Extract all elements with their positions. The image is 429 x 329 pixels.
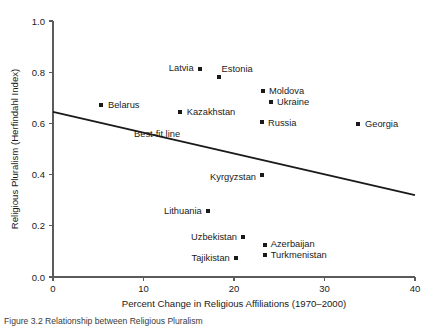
best-fit-line-label: Best-fit line (134, 129, 180, 139)
x-tick-label: 20 (229, 283, 240, 294)
y-tick-label: 0.2 (32, 220, 45, 231)
y-tick-label: 0.0 (32, 272, 45, 283)
x-tick-group: 010203040 (50, 277, 420, 294)
data-point-marker (241, 235, 245, 239)
data-point-marker (234, 256, 238, 260)
data-point-marker (178, 110, 182, 114)
data-point-label: Georgia (365, 119, 399, 129)
data-point-label: Turkmenistan (271, 250, 327, 260)
data-point-label: Tajikistan (192, 253, 230, 263)
data-point-label: Latvia (169, 63, 195, 73)
data-point-label: Kazakhstan (187, 107, 236, 117)
best-fit-line-group: Best-fit line (53, 112, 415, 195)
x-tick-label: 40 (410, 283, 421, 294)
data-point-marker (356, 122, 360, 126)
x-tick-label: 30 (319, 283, 330, 294)
data-point-label: Belarus (108, 100, 140, 110)
data-point-label: Russia (268, 118, 297, 128)
x-tick-label: 0 (50, 283, 55, 294)
y-axis-title: Religious Pluralism (Herfindahl Index) (9, 69, 20, 230)
x-tick-label: 10 (138, 283, 149, 294)
data-point-label: Kyrgyzstan (210, 172, 256, 182)
data-points-group: BelarusLatviaEstoniaKazakhstanMoldovaUkr… (99, 63, 399, 263)
best-fit-line (53, 112, 415, 195)
data-point-label: Uzbekistan (191, 232, 237, 242)
y-tick-group: 0.00.20.40.60.81.0 (32, 16, 53, 283)
data-point-label: Estonia (222, 64, 254, 74)
data-point-label: Lithuania (164, 206, 203, 216)
data-point-marker (198, 67, 202, 71)
data-point-marker (263, 253, 267, 257)
data-point-label: Moldova (269, 86, 305, 96)
data-point-marker (261, 89, 265, 93)
data-point-marker (206, 209, 210, 213)
figure-container: 0.00.20.40.60.81.0 010203040 Best-fit li… (0, 0, 429, 329)
y-tick-label: 0.6 (32, 118, 45, 129)
figure-caption: Figure 3.2 Relationship between Religiou… (0, 316, 429, 329)
x-axis-title: Percent Change in Religious Affiliations… (122, 298, 346, 309)
data-point-marker (260, 173, 264, 177)
data-point-marker (263, 243, 267, 247)
data-point-label: Azerbaijan (271, 239, 315, 249)
data-point-label: Ukraine (277, 97, 309, 107)
y-tick-label: 1.0 (32, 16, 45, 27)
y-tick-label: 0.8 (32, 67, 45, 78)
data-point-marker (217, 75, 221, 79)
data-point-marker (260, 120, 264, 124)
data-point-marker (269, 100, 273, 104)
data-point-marker (99, 103, 103, 107)
y-tick-label: 0.4 (32, 169, 45, 180)
scatter-plot: 0.00.20.40.60.81.0 010203040 Best-fit li… (0, 0, 429, 329)
